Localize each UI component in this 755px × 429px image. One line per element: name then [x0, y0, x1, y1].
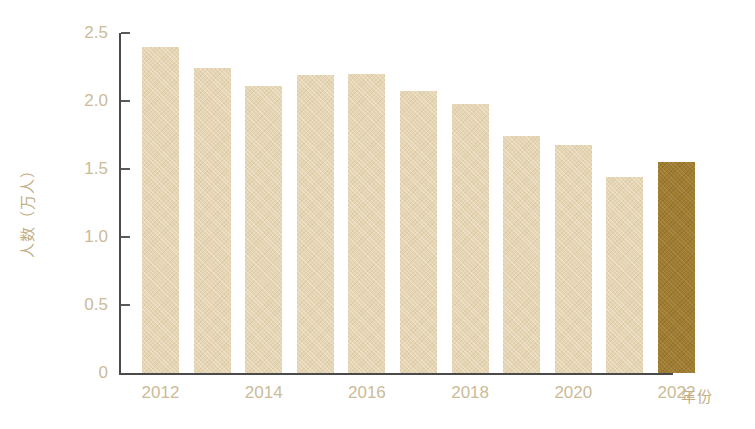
y-tick-label: 1.5: [62, 160, 108, 177]
x-tick-label-2016: 2016: [327, 384, 407, 401]
y-axis-title: 人数（万人）: [16, 120, 37, 300]
y-tick-label: 0.5: [62, 296, 108, 313]
x-axis-line: [119, 373, 673, 375]
bar-2022[interactable]: [658, 162, 695, 373]
y-axis-tick-labels: 00.51.01.52.02.5: [58, 0, 108, 429]
y-tick-label: 1.0: [62, 228, 108, 245]
x-tick-label-2012: 2012: [121, 384, 201, 401]
x-axis-title: 年份: [681, 385, 713, 406]
bar-chart: 人数（万人） 00.51.01.52.02.5 2012201420162018…: [0, 0, 755, 429]
bar-2012[interactable]: [142, 47, 179, 373]
bar-2015[interactable]: [297, 75, 334, 373]
x-tick-label-2014: 2014: [224, 384, 304, 401]
bar-2018[interactable]: [452, 104, 489, 373]
y-tick-label: 2.0: [62, 92, 108, 109]
y-tick-label: 0: [62, 364, 108, 381]
x-tick-label-2020: 2020: [533, 384, 613, 401]
bar-2020[interactable]: [555, 145, 592, 373]
y-tick-label: 2.5: [62, 24, 108, 41]
bar-2014[interactable]: [245, 86, 282, 373]
x-tick-label-2018: 2018: [430, 384, 510, 401]
plot-area: [121, 33, 673, 373]
bar-2013[interactable]: [194, 68, 231, 373]
bar-2017[interactable]: [400, 91, 437, 373]
bar-2016[interactable]: [348, 74, 385, 373]
bar-2019[interactable]: [503, 136, 540, 373]
bar-2021[interactable]: [606, 177, 643, 373]
